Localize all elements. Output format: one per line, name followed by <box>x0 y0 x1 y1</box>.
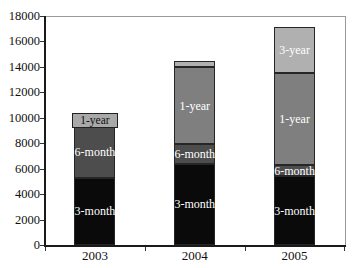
y-tick-label: 4000 <box>0 188 40 201</box>
y-tick-label: 16000 <box>0 35 40 48</box>
segment-label-6-month: 6-month <box>274 165 315 177</box>
y-tick-label: 12000 <box>0 86 40 99</box>
y-tick-label: 2000 <box>0 214 40 227</box>
bar-segment-6-month-2005: 6-month <box>274 165 315 176</box>
y-tick-label: 8000 <box>0 137 40 150</box>
segment-label-3-month: 3-month <box>274 205 315 217</box>
segment-label-1-year: 1-year <box>279 113 310 125</box>
segment-label-3-month: 3-month <box>75 205 116 217</box>
x-tick-mark <box>245 247 246 251</box>
y-tick-label: 18000 <box>0 10 40 23</box>
segment-label-6-month: 6-month <box>75 146 116 158</box>
plot-frame-top <box>45 16 345 17</box>
y-tick-label: 6000 <box>0 163 40 176</box>
x-axis-line <box>44 245 346 247</box>
segment-label-3-month: 3-month <box>174 198 215 210</box>
bar-segment-3-year-2004 <box>174 61 215 67</box>
segment-label-1-year: 1-year <box>72 113 118 129</box>
y-tick-label: 10000 <box>0 112 40 125</box>
bar-segment-6-month-2004: 6-month <box>174 144 215 163</box>
stacked-bar-chart: 0200040006000800010000120001400016000180… <box>0 0 358 268</box>
y-axis-line <box>44 16 46 246</box>
bar-segment-1-year-2004: 1-year <box>174 67 215 145</box>
bar-segment-6-month-2003: 6-month <box>74 127 115 178</box>
y-tick-label: 0 <box>0 239 40 252</box>
x-tick-mark <box>45 247 46 251</box>
bar-segment-1-year-2005: 1-year <box>274 73 315 165</box>
x-category-label: 2004 <box>165 249 225 262</box>
x-tick-mark <box>145 247 146 251</box>
segment-label-3-year: 3-year <box>279 44 310 56</box>
x-category-label: 2005 <box>265 249 325 262</box>
x-tick-mark <box>344 247 345 251</box>
bar-segment-3-month-2003: 3-month <box>74 178 115 245</box>
segment-label-6-month: 6-month <box>174 148 215 160</box>
plot-frame-right <box>345 16 346 245</box>
bar-segment-3-month-2004: 3-month <box>174 164 215 245</box>
y-tick-label: 14000 <box>0 61 40 74</box>
bar-segment-3-year-2005: 3-year <box>274 27 315 73</box>
bar-segment-3-month-2005: 3-month <box>274 176 315 245</box>
segment-label-1-year: 1-year <box>179 100 210 112</box>
bar-segment-1-year-2003: 1-year <box>74 114 115 127</box>
x-category-label: 2003 <box>65 249 125 262</box>
